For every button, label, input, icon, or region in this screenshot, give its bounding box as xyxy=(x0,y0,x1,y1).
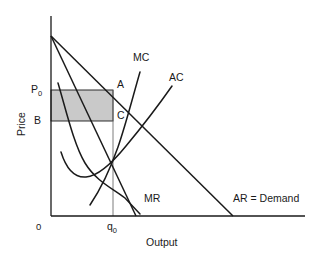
y-tick-price-p0: P0 xyxy=(31,84,42,98)
average-cost-label: AC xyxy=(169,72,184,83)
y-tick-price-subscript: 0 xyxy=(38,89,42,98)
y-tick-price-base: P xyxy=(31,83,38,95)
marginal-revenue-label: MR xyxy=(144,193,160,204)
supernormal-profit-rectangle xyxy=(51,90,113,121)
average-revenue-demand-label: AR = Demand xyxy=(233,193,299,204)
y-axis-title: Price xyxy=(16,112,27,136)
marginal-revenue-line xyxy=(51,36,136,216)
economics-diagram: Price Output 0 P0 B q0 A C MC AC MR AR =… xyxy=(0,0,313,258)
plot-canvas xyxy=(0,0,313,258)
x-axis-title: Output xyxy=(146,237,178,248)
x-tick-quantity-subscript: 0 xyxy=(113,226,117,235)
origin-label: 0 xyxy=(36,222,41,232)
point-a-label: A xyxy=(117,79,124,90)
marginal-cost-label: MC xyxy=(133,52,149,63)
point-c-label: C xyxy=(117,110,125,121)
x-tick-quantity-q0: q0 xyxy=(107,221,117,235)
y-tick-cost-b: B xyxy=(34,115,41,126)
